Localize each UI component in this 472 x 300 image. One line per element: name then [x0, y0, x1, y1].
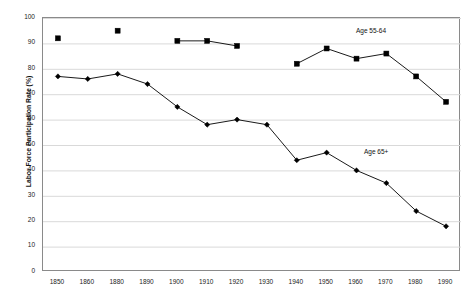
x-tick-label: 1970	[378, 279, 392, 286]
x-tick-label: 1920	[229, 279, 243, 286]
series-annotation-age-65-plus: Age 65+	[364, 148, 388, 155]
y-axis-title: Labor Force Participation Rate (%)	[25, 52, 32, 212]
x-axis-tick-labels: 1850186018801890190019101920193019401950…	[0, 0, 472, 300]
x-tick-label: 1930	[259, 279, 273, 286]
x-tick-label: 1860	[80, 279, 94, 286]
x-tick-label: 1880	[109, 279, 123, 286]
chart-container: 0102030405060708090100 18501860188018901…	[0, 0, 472, 300]
x-tick-label: 1850	[50, 279, 64, 286]
x-tick-label: 1990	[438, 279, 452, 286]
x-tick-label: 1980	[408, 279, 422, 286]
x-tick-label: 1940	[289, 279, 303, 286]
x-tick-label: 1960	[348, 279, 362, 286]
x-tick-label: 1900	[169, 279, 183, 286]
series-annotation-age-55-64: Age 55-64	[356, 27, 386, 34]
x-tick-label: 1950	[318, 279, 332, 286]
x-tick-label: 1890	[139, 279, 153, 286]
x-tick-label: 1910	[199, 279, 213, 286]
